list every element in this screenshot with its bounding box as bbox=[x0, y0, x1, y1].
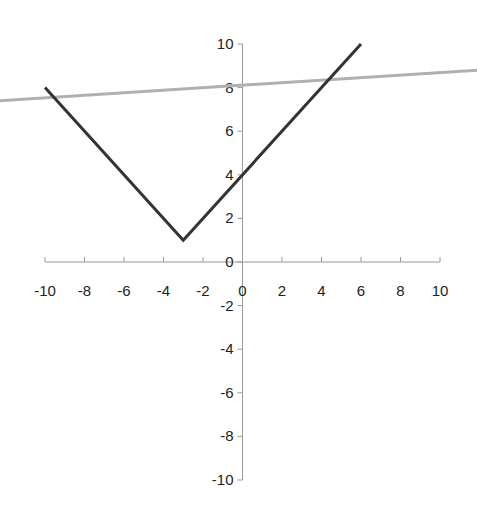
chart-canvas: -10-8-6-4-20246810 1086420-2-4-6-8-10 bbox=[0, 0, 477, 525]
x-tick-label: 4 bbox=[317, 282, 325, 299]
data-series bbox=[45, 44, 361, 240]
y-tick-label: 10 bbox=[217, 35, 234, 52]
overlay-line bbox=[0, 70, 477, 101]
y-tick-label: 2 bbox=[225, 209, 233, 226]
y-tick-label: -8 bbox=[220, 427, 233, 444]
x-tick-label: 6 bbox=[357, 282, 365, 299]
x-tick-label: -4 bbox=[157, 282, 170, 299]
y-tick-label: -6 bbox=[220, 384, 233, 401]
y-tick-label: -10 bbox=[212, 471, 234, 488]
series-line bbox=[45, 44, 361, 240]
y-tick-label: 0 bbox=[225, 253, 233, 270]
y-tick-label: -4 bbox=[220, 340, 233, 357]
y-tick-label: -2 bbox=[220, 297, 233, 314]
x-tick-label: 2 bbox=[278, 282, 286, 299]
overlay-gray-line bbox=[0, 70, 477, 101]
x-tick-label: 10 bbox=[432, 282, 449, 299]
y-tick-label: 4 bbox=[225, 166, 233, 183]
x-tick-label: -2 bbox=[196, 282, 209, 299]
y-tick-label: 6 bbox=[225, 122, 233, 139]
x-tick-label: 8 bbox=[396, 282, 404, 299]
x-tick-label: -10 bbox=[34, 282, 56, 299]
x-axis-ticks: -10-8-6-4-20246810 bbox=[34, 257, 448, 299]
x-tick-label: 0 bbox=[238, 282, 246, 299]
axes: -10-8-6-4-20246810 1086420-2-4-6-8-10 bbox=[34, 35, 448, 488]
x-tick-label: -6 bbox=[117, 282, 130, 299]
x-tick-label: -8 bbox=[78, 282, 91, 299]
